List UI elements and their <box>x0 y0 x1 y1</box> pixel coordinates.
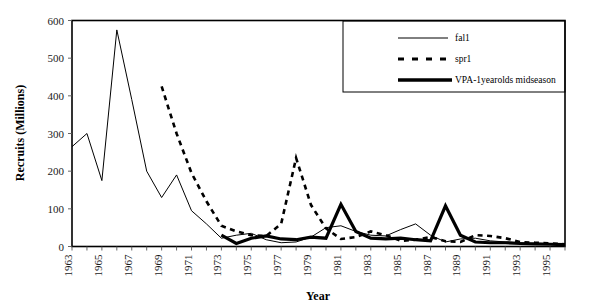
y-tick-label: 400 <box>48 90 65 102</box>
x-tick-label: 1985 <box>391 254 403 277</box>
x-tick-label: 1981 <box>331 255 343 277</box>
x-tick-label: 1983 <box>361 254 373 277</box>
x-tick-label: 1991 <box>480 255 492 277</box>
x-axis-title: Year <box>306 289 331 303</box>
y-tick-label: 300 <box>48 128 65 140</box>
y-axis-title: Recruits (Millions) <box>13 85 27 181</box>
x-tick-label: 1973 <box>211 254 223 277</box>
legend-label-fal1: fal1 <box>455 33 470 43</box>
x-tick-label: 1989 <box>450 254 462 277</box>
legend-label-vpa: VPA-1yearolds midseason <box>455 75 556 85</box>
x-tick-label: 1971 <box>182 255 194 277</box>
x-tick-label: 1969 <box>152 254 164 277</box>
y-tick-label: 0 <box>59 241 65 253</box>
x-tick-label: 1979 <box>301 254 313 277</box>
legend-label-spr1: spr1 <box>455 54 472 64</box>
x-tick-label: 1993 <box>510 254 522 277</box>
x-tick-label: 1963 <box>62 254 74 277</box>
recruits-line-chart: 0100200300400500600 19631965196719691971… <box>0 0 591 308</box>
x-tick-label: 1965 <box>92 254 104 277</box>
chart-background <box>0 0 591 308</box>
x-tick-label: 1977 <box>271 254 283 277</box>
y-tick-label: 200 <box>48 165 65 177</box>
x-tick-label: 1975 <box>241 254 253 277</box>
x-tick-label: 1987 <box>421 254 433 277</box>
y-tick-label: 600 <box>48 15 65 27</box>
x-tick-label: 1995 <box>540 254 552 277</box>
x-tick-label: 1967 <box>122 254 134 277</box>
chart-figure: 0100200300400500600 19631965196719691971… <box>0 0 591 308</box>
y-tick-label: 100 <box>48 203 65 215</box>
y-tick-label: 500 <box>48 52 65 64</box>
